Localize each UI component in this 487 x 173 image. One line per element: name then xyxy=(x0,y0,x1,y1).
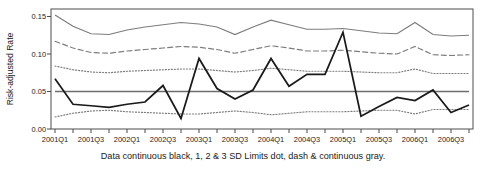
x-tick-label: 2004Q1 xyxy=(258,135,284,144)
x-tick-label: 2003Q1 xyxy=(186,135,212,144)
x-tick-label: 2006Q1 xyxy=(402,135,428,144)
chart-canvas: Risk-adjusted Rate 0.000.050.100.15 2001… xyxy=(0,0,487,173)
x-tick-label: 2001Q1 xyxy=(42,135,68,144)
x-tick-label: 2001Q3 xyxy=(78,135,104,144)
x-tick-label: 2002Q1 xyxy=(114,135,140,144)
y-tick-label: 0.00 xyxy=(32,125,46,134)
risk-adjusted-rate-control-chart: Risk-adjusted Rate 0.000.050.100.15 2001… xyxy=(0,0,487,173)
y-tick-label: 0.10 xyxy=(32,50,46,59)
x-tick-label: 2005Q1 xyxy=(330,135,356,144)
y-tick-label: 0.05 xyxy=(32,87,46,96)
x-tick-label: 2005Q3 xyxy=(366,135,392,144)
chart-caption: Data continuous black, 1, 2 & 3 SD Limit… xyxy=(101,151,385,161)
x-tick-label: 2004Q3 xyxy=(294,135,320,144)
x-tick-label: 2006Q3 xyxy=(438,135,464,144)
x-tick-label: 2003Q3 xyxy=(222,135,248,144)
x-tick-label: 2002Q3 xyxy=(150,135,176,144)
y-tick-label: 0.15 xyxy=(32,12,46,21)
y-axis-label: Risk-adjusted Rate xyxy=(5,32,15,105)
